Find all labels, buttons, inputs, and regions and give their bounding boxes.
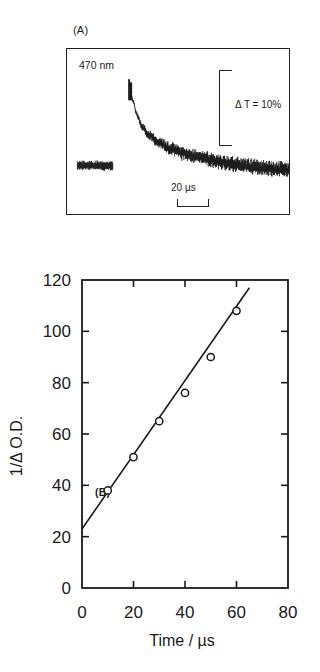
x-tick-label: 80 (279, 603, 298, 622)
y-tick-labels: 020406080100120 (43, 271, 71, 598)
y-tick-label: 120 (43, 271, 71, 290)
x-tick-labels: 020406080 (77, 603, 297, 622)
data-points (104, 307, 240, 494)
time-scale-bracket (177, 199, 209, 207)
x-tick-label: 40 (176, 603, 195, 622)
y-tick-label: 20 (52, 528, 71, 547)
y-tick-label: 0 (62, 579, 71, 598)
y-tick-label: 100 (43, 322, 71, 341)
y-tick-label: 80 (52, 374, 71, 393)
plot-frame (82, 280, 288, 588)
x-tick-label: 0 (77, 603, 86, 622)
x-tick-label: 60 (227, 603, 246, 622)
oscilloscope-frame: 470 nm Δ T = 10% 20 µs (66, 48, 290, 215)
wavelength-label: 470 nm (79, 59, 114, 71)
axis-ticks (82, 280, 288, 588)
data-point (104, 487, 111, 494)
data-point (233, 307, 240, 314)
data-point (130, 454, 137, 461)
delta-t-scale-bracket (219, 70, 232, 146)
delta-t-scale-label: Δ T = 10% (235, 99, 281, 110)
x-axis-title: Time / µs (149, 632, 215, 649)
y-tick-label: 40 (52, 476, 71, 495)
figure-root: (A) 470 nm Δ T = 10% 20 µs (B) 020406080… (0, 0, 320, 672)
panel-b-kinetic-plot: (B) 020406080 020406080100120 Time / µs … (0, 228, 320, 672)
panel-a-oscilloscope: (A) 470 nm Δ T = 10% 20 µs (0, 0, 320, 228)
panel-a-tag: (A) (73, 24, 88, 36)
kinetic-plot: 020406080 020406080100120 Time / µs 1/Δ … (0, 228, 320, 672)
data-point (156, 418, 163, 425)
y-axis-title: 1/Δ O.D. (8, 416, 25, 476)
y-tick-label: 60 (52, 425, 71, 444)
data-point (181, 389, 188, 396)
x-tick-label: 20 (124, 603, 143, 622)
time-scale-label: 20 µs (171, 182, 196, 193)
data-point (207, 353, 214, 360)
